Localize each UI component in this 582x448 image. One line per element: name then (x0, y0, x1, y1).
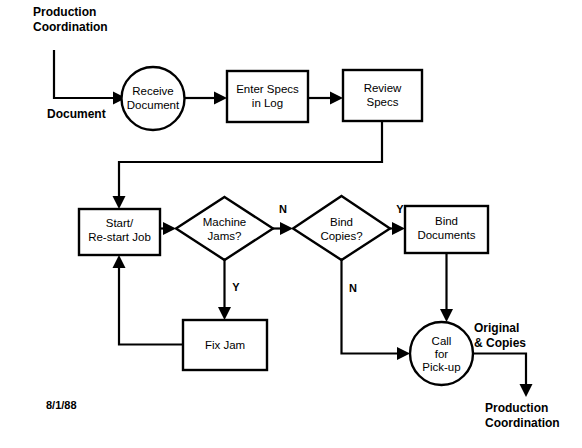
node-bind-documents-line1: Bind (435, 215, 458, 227)
node-enter-specs-line2: in Log (252, 97, 283, 109)
node-machine-jams-line2: Jams? (208, 230, 242, 242)
edge-label-bind-copies-no: N (349, 282, 357, 294)
edge-label-bind-copies-yes: Y (396, 203, 404, 215)
node-bind-copies-decision[interactable] (293, 196, 390, 260)
node-review-specs-line2: Specs (367, 96, 399, 108)
arrowhead-bind-documents-to-call (440, 309, 453, 322)
source-actor-line2: Coordination (33, 20, 108, 34)
node-start-restart-job-line2: Re-start Job (88, 231, 151, 243)
node-bind-copies-line2: Copies? (320, 230, 362, 242)
output-artifact-line1: Original (474, 321, 519, 335)
node-review-specs-line1: Review (364, 82, 402, 94)
diagram-date: 8/1/88 (46, 399, 77, 411)
node-fix-jam-line1: Fix Jam (205, 339, 245, 351)
connector-source-to-receive (54, 50, 113, 98)
connector-bind-copies-no-to-call (342, 260, 398, 354)
source-actor-line1: Production (33, 5, 96, 19)
node-receive-document-line1: Receive (132, 85, 174, 97)
arrowhead-bind-copies-yes (392, 222, 405, 235)
arrowhead-fix-jam-to-start (113, 255, 126, 268)
edge-label-machine-jams-no: N (279, 203, 287, 215)
input-artifact-label: Document (47, 107, 106, 121)
node-enter-specs-line1: Enter Specs (236, 83, 299, 95)
destination-actor-line1: Production (485, 401, 548, 415)
connector-call-to-destination (473, 354, 526, 385)
node-machine-jams-line1: Machine (203, 216, 246, 228)
arrowhead-bind-copies-no-to-call (397, 347, 410, 360)
edge-label-machine-jams-yes: Y (232, 281, 240, 293)
node-start-restart-job-line1: Start/ (106, 217, 134, 229)
connector-review-to-start (119, 121, 382, 196)
node-bind-copies-line1: Bind (330, 216, 353, 228)
flowchart-canvas: Bind Copies? --> Fix Jam --> Bind Docume… (0, 0, 582, 448)
arrowhead-call-to-destination (520, 384, 533, 397)
node-receive-document-line2: Document (127, 99, 180, 111)
node-call-for-pickup-line1: Call (432, 335, 452, 347)
arrowhead-enter-to-review (330, 92, 343, 105)
flowchart-page: Bind Copies? --> Fix Jam --> Bind Docume… (0, 0, 582, 448)
arrowhead-receive-to-enter (214, 92, 227, 105)
node-call-for-pickup-line3: Pick-up (422, 361, 460, 373)
node-call-for-pickup-line2: for (435, 348, 449, 360)
arrowhead-review-to-start (113, 196, 126, 209)
output-artifact-line2: & Copies (474, 336, 526, 350)
node-machine-jams-decision[interactable] (176, 197, 273, 260)
arrowhead-jams-yes-to-fix-jam (218, 307, 231, 320)
connector-fix-jam-to-start (119, 268, 183, 345)
destination-actor-line2: Coordination (485, 416, 560, 430)
node-bind-documents-line2: Documents (417, 229, 475, 241)
